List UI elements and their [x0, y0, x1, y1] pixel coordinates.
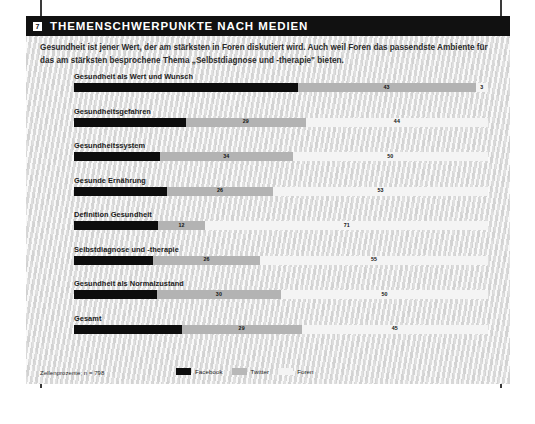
bar-segment-foren: 50 — [281, 290, 488, 299]
legend-swatch-twitter — [232, 368, 247, 375]
chart-bar: 3050 — [74, 290, 488, 299]
chart-row-label: Definition Gesundheit — [74, 210, 152, 219]
chart-bar: 2655 — [74, 256, 488, 265]
bar-segment-value: 71 — [344, 223, 350, 228]
bar-segment-foren: 53 — [273, 187, 488, 196]
chart-row-label: Gesundheit als Wert und Wunsch — [74, 72, 193, 81]
chart-bar: 1271 — [74, 221, 488, 230]
bar-segment-value: 55 — [371, 257, 377, 262]
bar-segment-value: 45 — [392, 326, 398, 331]
bar-segment-value: 26 — [217, 188, 223, 193]
chart-row: Gesundheit als Normalzustand3050 — [26, 279, 510, 312]
bar-segment-value: 34 — [223, 154, 229, 159]
bar-segment-twitter: 12 — [158, 221, 206, 230]
chart-legend: FacebookTwitterForen — [176, 368, 314, 375]
chart-bar: 2944 — [74, 118, 488, 127]
legend-label: Foren — [297, 368, 313, 375]
bar-segment-value: 50 — [381, 292, 387, 297]
section-number-badge: 7 — [33, 22, 42, 31]
legend-item-facebook[interactable]: Facebook — [176, 368, 223, 375]
bar-segment-value: 26 — [203, 257, 209, 262]
bar-segment-value: 43 — [384, 85, 390, 90]
chart-row: Gesamt2945 — [26, 314, 510, 347]
bar-segment-twitter: 34 — [160, 152, 293, 161]
chart-row-label: Gesundheit als Normalzustand — [74, 279, 184, 288]
chart-bar: 2945 — [74, 325, 488, 334]
bar-segment-foren: 45 — [302, 325, 488, 334]
chart-row: Selbstdiagnose und -therapie2655 — [26, 245, 510, 278]
chart-row: Gesundheitssystem3450 — [26, 141, 510, 174]
bar-segment-value: 12 — [178, 223, 184, 228]
source-note: Zellenprozente; n = 798 — [40, 370, 104, 376]
chart-row: Gesunde Ernährung2653 — [26, 176, 510, 209]
bar-segment-value: 53 — [377, 188, 383, 193]
chart-row: Definition Gesundheit1271 — [26, 210, 510, 243]
bar-segment-twitter: 26 — [153, 256, 261, 265]
bar-segment-twitter: 26 — [167, 187, 273, 196]
bar-segment-foren: 3 — [476, 83, 488, 92]
stacked-bar-chart: Gesundheit als Wert und Wunsch433Gesundh… — [26, 72, 510, 362]
bar-segment-value: 29 — [243, 119, 249, 124]
chart-bar: 433 — [74, 83, 488, 92]
bar-segment-twitter: 29 — [186, 118, 306, 127]
legend-label: Twitter — [251, 368, 270, 375]
chart-row-label: Selbstdiagnose und -therapie — [74, 245, 179, 254]
chart-row: Gesundheitsgefahren2944 — [26, 107, 510, 140]
chart-row-label: Gesunde Ernährung — [74, 176, 146, 185]
chart-panel: 7 THEMENSCHWERPUNKTE NACH MEDIEN Gesundh… — [26, 16, 510, 384]
legend-label: Facebook — [195, 368, 223, 375]
chart-bar: 3450 — [74, 152, 488, 161]
bar-segment-value: 29 — [239, 326, 245, 331]
bar-segment-facebook — [74, 325, 182, 334]
bar-segment-foren: 71 — [205, 221, 488, 230]
bar-segment-value: 44 — [394, 119, 400, 124]
bar-segment-facebook — [74, 152, 160, 161]
chart-row-label: Gesamt — [74, 314, 101, 323]
legend-item-twitter[interactable]: Twitter — [232, 368, 270, 375]
bar-segment-facebook — [74, 118, 186, 127]
bar-segment-foren: 44 — [306, 118, 488, 127]
chart-footer: Zellenprozente; n = 798 FacebookTwitterF… — [26, 368, 510, 384]
legend-swatch-facebook — [176, 368, 191, 375]
bar-segment-value: 30 — [216, 292, 222, 297]
chart-bar: 2653 — [74, 187, 488, 196]
bar-segment-value: 50 — [387, 154, 393, 159]
chart-row-label: Gesundheitsgefahren — [74, 107, 151, 116]
page-title: THEMENSCHWERPUNKTE NACH MEDIEN — [50, 20, 308, 32]
bar-segment-facebook — [74, 187, 167, 196]
header-bar: 7 THEMENSCHWERPUNKTE NACH MEDIEN — [26, 16, 510, 36]
bar-segment-facebook — [74, 221, 158, 230]
bar-segment-facebook — [74, 256, 153, 265]
bar-segment-twitter: 29 — [182, 325, 302, 334]
bar-segment-twitter: 30 — [157, 290, 281, 299]
chart-row: Gesundheit als Wert und Wunsch433 — [26, 72, 510, 105]
chart-row-label: Gesundheitssystem — [74, 141, 145, 150]
page-root: 7 THEMENSCHWERPUNKTE NACH MEDIEN Gesundh… — [0, 0, 535, 424]
legend-swatch-foren — [278, 368, 293, 375]
bar-segment-facebook — [74, 290, 157, 299]
bar-segment-value: 3 — [480, 85, 483, 90]
legend-item-foren[interactable]: Foren — [278, 368, 313, 375]
bar-segment-twitter: 43 — [298, 83, 476, 92]
bar-segment-facebook — [74, 83, 298, 92]
bar-segment-foren: 55 — [260, 256, 488, 265]
intro-paragraph: Gesundheit ist jener Wert, der am stärks… — [40, 42, 490, 67]
bar-segment-foren: 50 — [293, 152, 488, 161]
